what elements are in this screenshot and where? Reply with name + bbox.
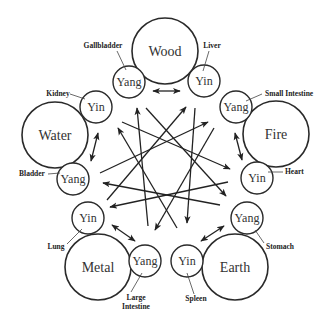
bladder-label: Bladder [19,169,46,178]
fire-label: Fire [265,127,288,142]
element-fire: Fire Yang Yin Small Intestine Heart [220,89,314,194]
large-intestine-label-line2: Intestine [122,302,151,311]
cross-arrows [100,107,230,230]
control-cycle-arrow [187,108,195,223]
element-metal: Metal Yin Yang Lung Large Intestine [47,202,161,311]
small-intestine-yang-label: Yang [224,100,249,114]
kidney-yin-label: Yin [87,100,104,114]
large-intestine-leader [131,273,142,292]
element-wood: Wood Yang Yin Gallbladder Liver [84,18,222,98]
water-label: Water [38,128,71,143]
lung-label: Lung [47,242,64,251]
bladder-yang-label: Yang [61,172,86,186]
fire-yin-yang-arrow [235,133,242,160]
liver-yin-label: Yin [195,74,212,88]
gallbladder-label: Gallbladder [84,41,123,50]
large-intestine-label-line1: Large [126,293,146,302]
control-cycle-arrow [118,128,177,228]
large-intestine-yang-label: Yang [133,254,158,268]
spleen-label: Spleen [185,294,207,303]
liver-label: Liver [203,41,221,50]
stomach-yang-label: Yang [235,211,260,225]
control-cycle-arrow [137,108,148,226]
water-yin-yang-arrow [91,133,98,161]
small-intestine-label: Small Intestine [265,89,314,98]
element-earth: Earth Yang Yin Stomach Spleen [171,202,295,303]
heart-label: Heart [285,167,304,176]
heart-yin-label: Yin [248,171,265,185]
earth-label: Earth [220,260,250,275]
spleen-yin-label: Yin [178,254,195,268]
stomach-label: Stomach [266,242,295,251]
element-water: Water Yin Yang Kidney Bladder [19,89,112,195]
metal-label: Metal [82,260,115,275]
five-elements-diagram: Wood Yang Yin Gallbladder Liver Fire Yan… [0,0,331,323]
lung-yin-label: Yin [79,211,96,225]
wood-label: Wood [148,44,181,59]
control-cycle-arrow [146,108,226,196]
kidney-label: Kidney [46,89,70,98]
gallbladder-yang-label: Yang [117,75,142,89]
kidney-leader [70,94,85,99]
